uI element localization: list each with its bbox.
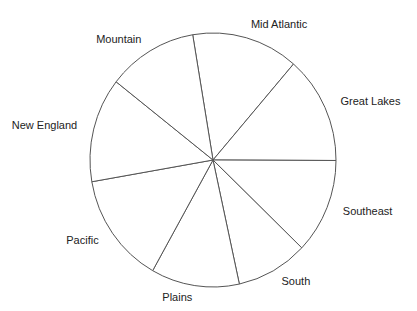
label-pacific: Pacific [66,234,99,246]
label-plains: Plains [162,291,192,303]
label-mid-atlantic: Mid Atlantic [251,18,308,30]
pie-slices [90,33,336,287]
pie-chart: Mid AtlanticGreat LakesSoutheastSouthPla… [0,0,417,311]
label-southeast: Southeast [343,205,393,217]
label-south: South [282,275,311,287]
label-new-england: New England [12,119,77,131]
label-mountain: Mountain [96,33,141,45]
label-great-lakes: Great Lakes [341,95,401,107]
